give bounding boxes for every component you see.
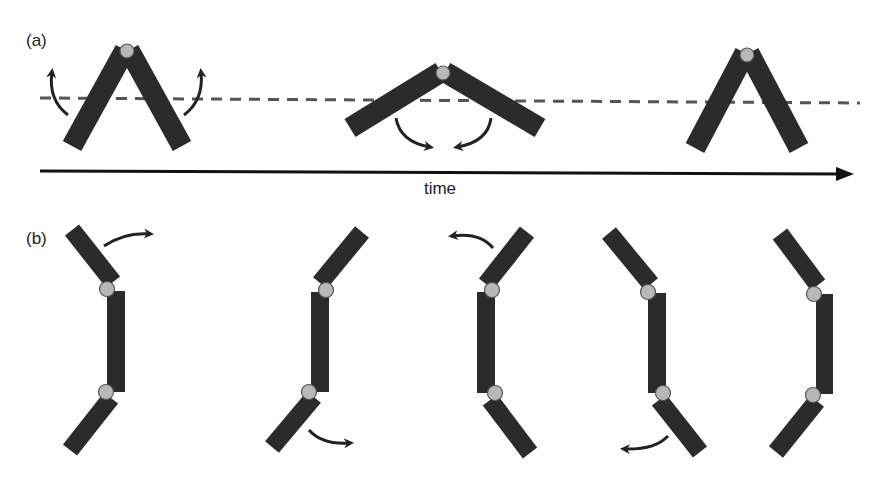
curved-arrow-down-left-icon — [457, 118, 491, 147]
top-bar — [320, 232, 362, 283]
linkage-diagram: (a) time (b) — [0, 0, 874, 478]
chain-pose-1 — [70, 230, 150, 450]
chain-pose-5 — [776, 234, 833, 452]
top-bar — [609, 233, 651, 284]
hinge-joint — [485, 283, 500, 298]
hinge-joint — [656, 386, 671, 401]
panel-b: (b) — [26, 229, 833, 453]
curved-arrow-right-icon — [309, 430, 350, 443]
bottom-bar — [70, 398, 111, 450]
time-axis-label: time — [424, 179, 456, 198]
bottom-bar — [272, 397, 314, 447]
middle-bar — [648, 293, 666, 393]
hinge-joint — [807, 287, 822, 302]
panel-a-label: (a) — [26, 31, 47, 50]
curved-arrow-up-right-icon — [184, 72, 201, 115]
middle-bar — [107, 291, 125, 392]
hinge-joint — [436, 66, 450, 80]
panel-a: (a) time — [26, 31, 860, 198]
panel-b-label: (b) — [26, 229, 47, 248]
curved-arrow-right-icon — [104, 234, 150, 246]
chain-pose-4 — [609, 233, 700, 452]
hinge-joint — [302, 385, 317, 400]
top-bar — [72, 230, 113, 282]
chain-pose-3 — [452, 232, 530, 453]
hinge-joint — [488, 386, 503, 401]
curved-arrow-down-right-icon — [396, 118, 430, 147]
bottom-bar — [776, 401, 817, 452]
linkage-pose-1 — [51, 44, 201, 146]
middle-bar — [477, 292, 495, 393]
middle-bar — [311, 292, 329, 392]
hinge-joint — [120, 44, 134, 58]
chain-pose-2 — [272, 232, 362, 447]
curved-arrow-left-icon — [624, 436, 668, 449]
hinge-joint — [319, 283, 334, 298]
hinge-joint — [740, 48, 754, 62]
hinge-joint — [806, 388, 821, 403]
hinge-joint — [100, 282, 115, 297]
time-axis-arrow-icon — [40, 171, 850, 174]
curved-arrow-left-icon — [452, 235, 493, 248]
curved-arrow-up-left-icon — [51, 72, 68, 115]
hinge-joint — [99, 385, 114, 400]
right-bar — [749, 53, 799, 148]
linkage-pose-2 — [350, 66, 540, 147]
bottom-bar — [490, 400, 530, 453]
bottom-bar — [659, 400, 700, 452]
top-bar — [486, 232, 527, 284]
hinge-joint — [641, 285, 656, 300]
top-bar — [780, 234, 818, 285]
left-bar — [695, 53, 745, 148]
middle-bar — [816, 294, 833, 394]
linkage-pose-3 — [695, 48, 799, 148]
